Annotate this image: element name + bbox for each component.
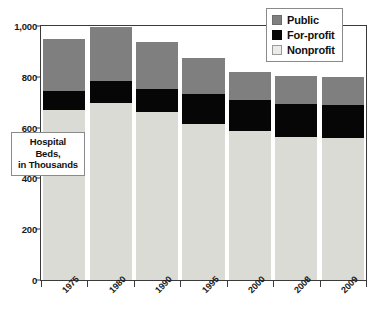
bar-segment-nonprofit [90, 103, 132, 280]
legend-item-public: Public [272, 12, 335, 27]
x-axis-tick-mark [41, 281, 42, 287]
bar-segment-nonprofit [229, 131, 271, 280]
bar-2009 [322, 77, 364, 280]
bar-segment-for-profit [90, 81, 132, 104]
bar-segment-nonprofit [275, 137, 317, 280]
x-axis-tick-mark [180, 281, 181, 287]
legend-item-label: For-profit [287, 29, 334, 41]
y-axis-title-line: in Thousands [18, 159, 78, 171]
bar-segment-for-profit [275, 104, 317, 137]
x-axis-tick-mark [320, 281, 321, 287]
bar-segment-for-profit [136, 89, 178, 113]
y-axis-title-box: HospitalBeds,in Thousands [11, 132, 85, 176]
bar-2008 [275, 76, 317, 280]
x-axis-tick-mark [87, 281, 88, 287]
bar-segment-nonprofit [136, 112, 178, 280]
bar-segment-for-profit [322, 105, 364, 138]
bar-segment-for-profit [229, 100, 271, 131]
public-swatch-icon [272, 15, 282, 25]
legend-item-label: Public [287, 14, 319, 26]
bar-segment-public [43, 39, 85, 90]
y-axis-tick-label: 200 [22, 224, 37, 235]
nonprofit-swatch-icon [272, 45, 282, 55]
bar-1995 [182, 58, 224, 280]
bar-segment-nonprofit [322, 138, 364, 280]
x-axis-tick-mark [366, 281, 367, 287]
bar-segment-public [322, 77, 364, 105]
stacked-bar-chart: 02004006008001,000 197519801990199520002… [0, 0, 383, 316]
y-axis-title-line: Hospital [18, 136, 78, 148]
y-axis-title-line: Beds, [18, 148, 78, 160]
bar-segment-public [90, 27, 132, 80]
x-axis-tick-mark [227, 281, 228, 287]
forprofit-swatch-icon [272, 30, 282, 40]
bar-segment-public [136, 42, 178, 88]
bar-segment-nonprofit [182, 124, 224, 280]
y-axis-tick-label: 800 [22, 71, 37, 82]
bar-segment-public [275, 76, 317, 105]
legend-item-nonprofit: Nonprofit [272, 42, 335, 57]
x-axis-tick-mark [273, 281, 274, 287]
chart-legend: PublicFor-profitNonprofit [266, 8, 343, 62]
bar-segment-public [229, 72, 271, 101]
y-axis-tick-label: 0 [32, 275, 37, 286]
bar-segment-for-profit [182, 94, 224, 125]
legend-item-label: Nonprofit [287, 44, 335, 56]
y-axis-tick-label: 1,000 [14, 21, 37, 32]
bar-1990 [136, 42, 178, 280]
bar-2000 [229, 72, 271, 280]
x-axis-tick-mark [134, 281, 135, 287]
legend-item-for-profit: For-profit [272, 27, 335, 42]
bar-segment-public [182, 58, 224, 94]
bar-1980 [90, 27, 132, 280]
bars-layer [41, 26, 366, 280]
bar-segment-for-profit [43, 91, 85, 111]
